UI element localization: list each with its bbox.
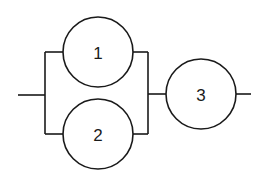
node-3-label: 3 [196,86,205,105]
node-2-label: 2 [93,126,102,145]
node-1-label: 1 [93,44,102,63]
node-3: 3 [166,59,236,129]
reliability-block-diagram: 1 2 3 [0,0,262,177]
node-1: 1 [63,17,133,87]
node-2: 2 [63,99,133,169]
